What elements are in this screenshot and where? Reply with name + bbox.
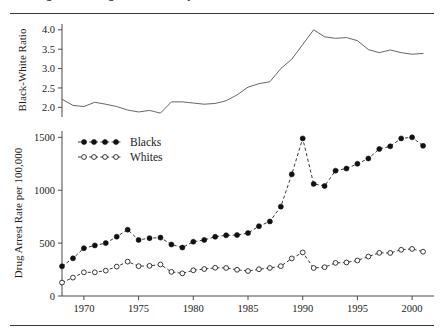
marker-blacks [377, 146, 382, 151]
marker-blacks [81, 246, 86, 251]
marker-blacks [147, 236, 152, 241]
marker-blacks [333, 168, 338, 173]
marker-whites [399, 247, 404, 252]
legend-label: Whites [130, 151, 163, 163]
x-tick-label: 1985 [238, 303, 259, 314]
marker-whites [366, 254, 371, 259]
x-tick-label: 2000 [402, 303, 423, 314]
marker-blacks [191, 239, 196, 244]
marker-blacks [136, 237, 141, 242]
marker-blacks [202, 237, 207, 242]
x-tick-label: 1990 [292, 303, 313, 314]
marker-whites [289, 256, 294, 261]
marker-blacks [235, 233, 240, 238]
marker-whites [388, 251, 393, 256]
marker-blacks [355, 161, 360, 166]
legend-marker [92, 140, 97, 145]
legend-marker [103, 140, 108, 145]
marker-blacks [180, 245, 185, 250]
marker-whites [355, 258, 360, 263]
legend-marker [82, 140, 87, 145]
y-tick-label: 1000 [34, 185, 55, 196]
y-tick-label: 500 [39, 238, 55, 249]
marker-blacks [300, 136, 305, 141]
marker-whites [103, 268, 108, 273]
marker-whites [224, 266, 229, 271]
marker-blacks [103, 241, 108, 246]
marker-blacks [169, 242, 174, 247]
y-tick-label: 2.0 [42, 102, 55, 113]
marker-whites [278, 264, 283, 269]
marker-blacks [70, 256, 75, 261]
y-axis-title: Black-White Ratio [16, 28, 28, 111]
marker-blacks [399, 136, 404, 141]
y-tick-label: 3.5 [42, 44, 55, 55]
marker-whites [169, 269, 174, 274]
marker-blacks [344, 166, 349, 171]
marker-blacks [421, 143, 426, 148]
marker-whites [60, 280, 65, 285]
marker-whites [246, 269, 251, 274]
x-tick-label: 1995 [347, 303, 368, 314]
marker-whites [344, 260, 349, 265]
marker-whites [421, 249, 426, 254]
marker-blacks [289, 172, 294, 177]
legend-marker [92, 155, 97, 160]
marker-blacks [388, 144, 393, 149]
marker-whites [191, 268, 196, 273]
marker-whites [311, 266, 316, 271]
marker-whites [322, 265, 327, 270]
y-tick-label: 2.5 [42, 83, 55, 94]
legend-marker [82, 155, 87, 160]
marker-whites [333, 260, 338, 265]
figure-drug-arrest-rates-by-race: Figure 3.2 Drug Arrest Rates by Race 2.0… [0, 0, 440, 335]
marker-whites [202, 267, 207, 272]
y-tick-label: 0 [50, 291, 55, 302]
legend-marker [103, 155, 108, 160]
marker-blacks [158, 235, 163, 240]
y-tick-label: 1500 [34, 132, 55, 143]
marker-whites [300, 250, 305, 255]
marker-whites [136, 264, 141, 269]
marker-blacks [224, 233, 229, 238]
y-tick-label: 4.0 [42, 24, 55, 35]
series-line-black-white ratio [62, 30, 423, 113]
marker-blacks [60, 264, 65, 269]
marker-whites [180, 271, 185, 276]
marker-whites [125, 259, 130, 264]
panel-bottom: 050010001500Drug Arrest Rate per 100,000… [12, 131, 434, 314]
marker-whites [267, 266, 272, 271]
x-tick-label: 1970 [73, 303, 94, 314]
marker-whites [71, 275, 76, 280]
marker-whites [257, 267, 262, 272]
legend-item-whites: Whites [78, 151, 163, 163]
panel-top: 2.02.53.03.54.0Black-White Ratio [16, 24, 423, 117]
marker-blacks [267, 219, 272, 224]
marker-whites [158, 262, 163, 267]
chart-canvas: 2.02.53.03.54.0Black-White Ratio05001000… [0, 0, 440, 335]
marker-whites [213, 265, 218, 270]
marker-blacks [125, 227, 130, 232]
marker-whites [147, 263, 152, 268]
marker-blacks [213, 234, 218, 239]
marker-blacks [246, 231, 251, 236]
marker-blacks [256, 224, 261, 229]
y-tick-label: 3.0 [42, 63, 55, 74]
x-tick-label: 1975 [128, 303, 149, 314]
marker-blacks [278, 204, 283, 209]
legend-marker [114, 155, 119, 160]
y-axis-title: Drug Arrest Rate per 100,000 [12, 147, 24, 278]
marker-whites [92, 270, 97, 275]
legend-marker [114, 140, 119, 145]
marker-whites [81, 270, 86, 275]
x-tick-label: 1980 [183, 303, 204, 314]
marker-blacks [410, 135, 415, 140]
marker-whites [114, 264, 119, 269]
marker-blacks [311, 181, 316, 186]
marker-blacks [114, 234, 119, 239]
marker-blacks [92, 243, 97, 248]
legend-item-blacks: Blacks [78, 136, 162, 148]
marker-whites [377, 250, 382, 255]
marker-blacks [322, 184, 327, 189]
marker-whites [410, 247, 415, 252]
